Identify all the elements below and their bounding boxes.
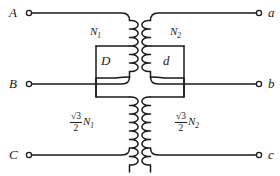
box-right-d-outline	[151, 77, 185, 97]
fraction-sqrt3-over-2-left: √3 2	[70, 112, 82, 134]
terminal-label-b: b	[268, 77, 275, 90]
fraction-denominator-right: 2	[178, 123, 185, 133]
winding-right-top	[142, 20, 151, 77]
fraction-coil-N2: N2	[188, 116, 199, 130]
winding-label-N2-sub: 2	[177, 31, 181, 40]
terminal-label-B: B	[9, 77, 17, 90]
lead-C-to-coil	[32, 148, 130, 155]
terminal-dot-C	[26, 152, 31, 157]
box-left-D-outline	[96, 77, 130, 97]
winding-label-N1: N1	[90, 26, 101, 40]
terminal-dot-A	[26, 10, 31, 15]
fraction-coil-N1: N1	[83, 116, 94, 130]
winding-label-N1-sub: 1	[97, 31, 101, 40]
lead-A-to-coil	[32, 13, 130, 21]
box-label-D: D	[101, 54, 110, 67]
terminal-dot-a	[256, 10, 261, 15]
fraction-numerator-right: √3	[175, 112, 187, 123]
terminal-dot-c	[256, 152, 261, 157]
terminal-label-c: c	[268, 148, 274, 161]
terminal-dot-b	[256, 81, 261, 86]
schematic-figure: A B C a b c N1 N2 D d √3 2 N1 √3 2 N2	[0, 0, 280, 176]
fraction-denominator-left: 2	[73, 123, 80, 133]
box-label-d: d	[163, 54, 170, 67]
terminal-label-A: A	[9, 6, 17, 19]
fraction-coil-N1-sub: 1	[90, 121, 94, 130]
fraction-coil-N2-sub: 2	[195, 121, 199, 130]
wiring-layer	[26, 10, 261, 172]
lead-a-to-coil	[151, 13, 257, 21]
transformer-schematic-svg	[0, 0, 280, 176]
terminal-label-a: a	[268, 6, 275, 19]
fraction-sqrt3-over-2-right: √3 2	[175, 112, 187, 134]
winding-label-N2: N2	[170, 26, 181, 40]
winding-label-sqrt3-over-2-N2: √3 2 N2	[175, 112, 199, 134]
winding-label-sqrt3-over-2-N1: √3 2 N1	[70, 112, 94, 134]
winding-right-bottom	[142, 97, 151, 172]
winding-left-bottom	[130, 97, 139, 172]
fraction-numerator-left: √3	[70, 112, 82, 123]
terminal-label-C: C	[9, 148, 18, 161]
lead-c-to-coil	[151, 148, 257, 155]
terminal-dot-B	[26, 81, 31, 86]
winding-left-top	[130, 20, 139, 77]
